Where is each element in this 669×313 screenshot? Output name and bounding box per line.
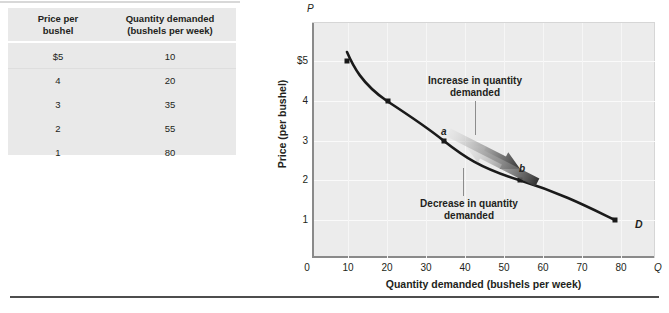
column-header-quantity: Quantity demanded (bushels per week) xyxy=(108,13,232,37)
demand-curve-chart: P Q $5 4 3 2 1 0 10 20 30 40 50 60 70 80… xyxy=(250,0,669,300)
data-point-marker xyxy=(386,99,391,104)
demand-schedule-table: Price per bushel Quantity demanded (bush… xyxy=(8,8,236,155)
point-label-a: a xyxy=(441,126,447,137)
annotation-increase-in-quantity-demanded: Increase in quantity demanded xyxy=(390,75,560,99)
column-header-price-line2: bushel xyxy=(43,25,74,36)
table-row: $5 10 xyxy=(8,46,236,68)
annotation-leader-line-increase xyxy=(475,101,476,135)
annotation-increase-line2: demanded xyxy=(450,87,500,98)
annotation-decrease-in-quantity-demanded: Decrease in quantity demanded xyxy=(384,198,554,222)
cell-quantity: 35 xyxy=(108,94,232,116)
annotation-decrease-line2: demanded xyxy=(444,210,494,221)
column-header-price-line1: Price per xyxy=(38,13,79,24)
column-header-quantity-line1: Quantity demanded xyxy=(126,13,215,24)
cell-quantity: 20 xyxy=(108,70,232,92)
figure-root: Price per bushel Quantity demanded (bush… xyxy=(0,0,669,313)
point-label-b: b xyxy=(519,163,525,174)
cell-price: 4 xyxy=(14,70,102,92)
cell-quantity: 80 xyxy=(108,142,232,164)
annotation-increase-line1: Increase in quantity xyxy=(428,75,522,86)
annotation-decrease-line1: Decrease in quantity xyxy=(420,198,518,209)
data-point-marker xyxy=(345,59,350,64)
chart-graphics xyxy=(250,0,669,300)
cell-price: 1 xyxy=(14,142,102,164)
table-row: 4 20 xyxy=(8,70,236,92)
table-row-divider xyxy=(8,68,236,69)
annotation-leader-line-decrease xyxy=(463,168,464,196)
table-row: 3 35 xyxy=(8,94,236,116)
cell-price: $5 xyxy=(14,46,102,68)
table-header-row: Price per bushel Quantity demanded (bush… xyxy=(8,8,236,42)
table-row: 1 80 xyxy=(8,142,236,164)
column-header-price: Price per bushel xyxy=(14,13,102,37)
data-point-marker xyxy=(613,218,618,223)
table-row: 2 55 xyxy=(8,118,236,140)
data-point-marker-a xyxy=(442,139,447,144)
cell-quantity: 55 xyxy=(108,118,232,140)
bottom-divider-rule xyxy=(10,296,659,298)
demand-curve-label: D xyxy=(635,218,643,230)
column-header-quantity-line2: (bushels per week) xyxy=(127,25,213,36)
cell-price: 3 xyxy=(14,94,102,116)
cell-quantity: 10 xyxy=(108,46,232,68)
top-divider-rule xyxy=(0,1,240,3)
table-header-divider xyxy=(8,41,236,43)
cell-price: 2 xyxy=(14,118,102,140)
